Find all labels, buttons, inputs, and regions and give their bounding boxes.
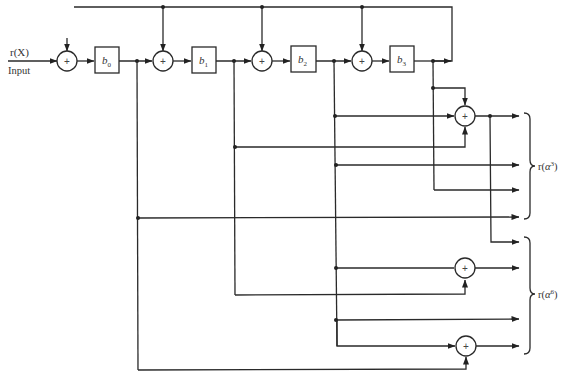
adder-plus-icon: +	[463, 341, 469, 352]
output-label-alpha3: r(α3)	[538, 160, 558, 173]
output-label-alpha6: r(α6)	[538, 288, 558, 301]
brace-alpha6	[524, 237, 535, 354]
tap-b1	[234, 61, 235, 295]
junction-dot	[260, 5, 264, 9]
junction-dot	[360, 5, 364, 9]
junction-dot	[136, 216, 140, 220]
output-alpha6-bit0	[490, 116, 519, 242]
tap-b2	[334, 61, 337, 346]
register-b2	[291, 46, 316, 72]
output-alpha6-bit2	[336, 319, 519, 320]
adder-plus-icon: +	[259, 56, 265, 67]
adder-plus-icon: +	[64, 56, 70, 67]
junction-dot	[233, 145, 237, 149]
output-alpha3-bit3	[138, 217, 519, 218]
adder-plus-icon: +	[160, 56, 166, 67]
junction-dot	[334, 163, 338, 167]
tap-b0	[137, 61, 138, 370]
input-signal-label: r(X)	[10, 46, 29, 59]
adder-plus-icon: +	[462, 111, 468, 122]
junction-dot	[334, 266, 338, 270]
junction-dot	[431, 86, 435, 90]
junction-dot	[333, 114, 337, 118]
syndrome-circuit-diagram: r(X) Input + b0 + b1 + b2 + b3	[0, 0, 572, 385]
input-caption: Input	[8, 65, 30, 76]
junction-dot	[161, 5, 165, 9]
tap-b3	[433, 61, 434, 190]
brace-alpha3	[524, 113, 535, 219]
adder-plus-icon: +	[462, 263, 468, 274]
adder-plus-icon: +	[359, 56, 365, 67]
